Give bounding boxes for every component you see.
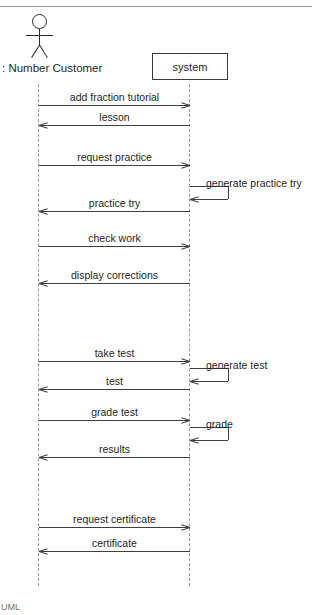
message-arrowhead — [39, 547, 48, 556]
message-label: practice try — [89, 197, 140, 209]
message-line — [39, 211, 190, 212]
message-label: request practice — [77, 151, 152, 163]
self-call-arrowhead — [190, 195, 199, 204]
message-line — [39, 105, 190, 106]
message-line — [39, 420, 190, 421]
message-label: display corrections — [71, 269, 158, 281]
message-label: check work — [88, 232, 141, 244]
actor-label: : Number Customer — [2, 62, 102, 74]
message-arrowhead — [39, 279, 48, 288]
message-label: take test — [95, 347, 135, 359]
message-arrowhead — [39, 207, 48, 216]
message-line — [39, 125, 190, 126]
stick-figure-actor-icon — [24, 14, 56, 60]
message-arrowhead — [39, 121, 48, 130]
message-line — [39, 246, 190, 247]
actor-arms — [26, 35, 53, 36]
self-call-arrowhead — [190, 377, 199, 386]
message-arrowhead — [181, 523, 190, 532]
self-call-label: generate practice try — [206, 177, 302, 189]
message-line — [39, 361, 190, 362]
message-arrowhead — [181, 161, 190, 170]
participant-label: system — [173, 61, 208, 73]
message-label: add fraction tutorial — [70, 91, 159, 103]
message-line — [39, 165, 190, 166]
lifeline-system — [189, 84, 190, 586]
message-arrowhead — [181, 416, 190, 425]
bottom-cropped-text: UML — [1, 603, 20, 610]
actor-leg-right — [39, 45, 48, 58]
message-line — [39, 283, 190, 284]
message-arrowhead — [39, 385, 48, 394]
self-call-label: grade — [206, 418, 233, 430]
message-label: test — [106, 375, 123, 387]
message-arrowhead — [181, 242, 190, 251]
message-label: grade test — [91, 406, 138, 418]
self-call-arrowhead — [190, 436, 199, 445]
message-arrowhead — [181, 357, 190, 366]
message-label: request certificate — [73, 513, 156, 525]
message-label: results — [99, 443, 130, 455]
message-line — [39, 457, 190, 458]
message-label: lesson — [99, 111, 129, 123]
message-line — [39, 527, 190, 528]
message-label: certificate — [92, 537, 137, 549]
message-arrowhead — [39, 453, 48, 462]
lifeline-actor — [38, 84, 39, 586]
message-line — [39, 389, 190, 390]
participant-box-system: system — [152, 53, 228, 80]
self-call-label: generate test — [206, 359, 267, 371]
actor-head — [32, 14, 47, 29]
message-arrowhead — [181, 101, 190, 110]
message-line — [39, 551, 190, 552]
top-divider-rule — [0, 6, 312, 7]
